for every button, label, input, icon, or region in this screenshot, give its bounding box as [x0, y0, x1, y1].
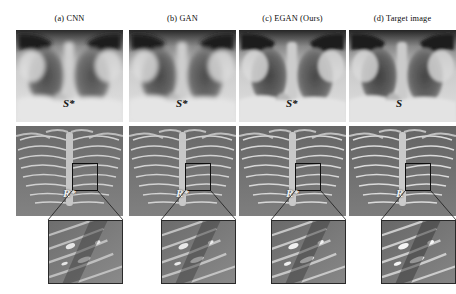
- bone-image: R*: [16, 126, 123, 216]
- roi-zoom-render: [382, 221, 455, 283]
- soft-tissue-render: [16, 30, 123, 122]
- soft-tissue-image: S*: [239, 30, 346, 122]
- roi-zoom-render: [272, 221, 345, 283]
- panel-egan-ours: (c) EGAN (Ours): [239, 0, 346, 294]
- roi-zoom-inset: [381, 220, 456, 284]
- panel-caption: (a) CNN: [16, 14, 123, 24]
- roi-box: [295, 163, 321, 191]
- roi-zoom-inset: [48, 220, 123, 284]
- bone-image: R*: [239, 126, 346, 216]
- soft-tissue-render: [349, 30, 456, 122]
- panel-caption: (d) Target image: [349, 14, 456, 24]
- panel-caption: (c) EGAN (Ours): [239, 14, 346, 24]
- roi-box: [185, 163, 211, 191]
- bone-image: R: [349, 126, 456, 216]
- bone-render: [349, 126, 456, 216]
- bone-render: [239, 126, 346, 216]
- roi-box: [72, 163, 98, 191]
- soft-tissue-image: S*: [16, 30, 123, 122]
- roi-zoom-inset: [271, 220, 346, 284]
- roi-zoom-render: [49, 221, 122, 283]
- bone-image: R*: [129, 126, 236, 216]
- panel-cnn: (a) CNN: [16, 0, 123, 294]
- panel-gan: (b) GAN: [129, 0, 236, 294]
- roi-box: [405, 163, 431, 191]
- soft-tissue-image: S*: [129, 30, 236, 122]
- panel-caption: (b) GAN: [129, 14, 236, 24]
- soft-tissue-render: [129, 30, 236, 122]
- bone-render: [129, 126, 236, 216]
- figure-canvas: (a) CNN: [0, 0, 456, 294]
- bone-render: [16, 126, 123, 216]
- roi-zoom-render: [162, 221, 235, 283]
- soft-tissue-image: S: [349, 30, 456, 122]
- roi-zoom-inset: [161, 220, 236, 284]
- panel-target-image: (d) Target image: [349, 0, 456, 294]
- soft-tissue-render: [239, 30, 346, 122]
